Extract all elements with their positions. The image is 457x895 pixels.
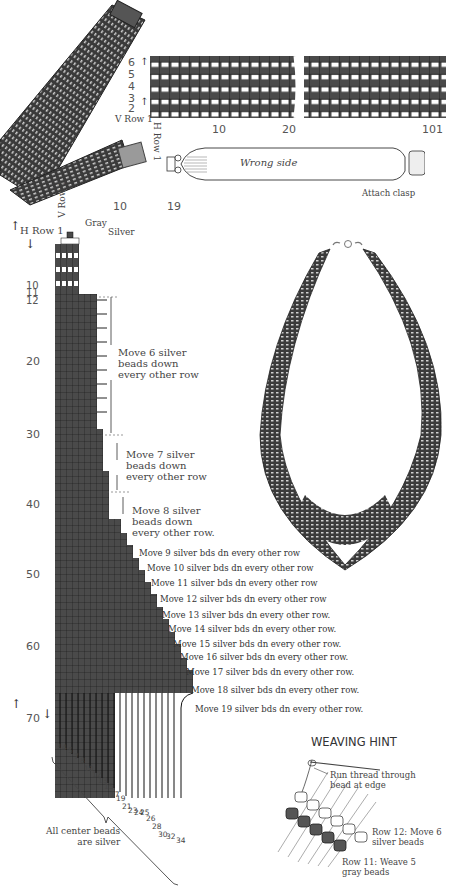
col-label-10: 10 (212, 123, 226, 136)
v-row-1-side-label: V Row 1 (57, 180, 67, 218)
down-arrow-icon: ↓ (42, 707, 52, 721)
side-col-10: 10 (113, 200, 127, 213)
instruction-8: Move 8 silver beads down every other row… (132, 505, 215, 538)
hint-callout-row-12: Row 12: Move 6 silver beads (372, 827, 442, 847)
instruction-19: Move 19 silver bds dn every other row. (195, 704, 363, 714)
h-row-1-label: H Row 1 (152, 122, 162, 161)
down-arrow-icon: ↓ (25, 237, 35, 251)
instruction-18: Move 18 silver bds dn every other row. (191, 685, 359, 695)
up-arrow-icon: ↑ (140, 96, 148, 107)
row-num-40: 40 (26, 498, 40, 511)
wrong-side-label: Wrong side (240, 157, 297, 168)
hint-callout-row-11: Row 11: Weave 5 gray beads (342, 857, 416, 877)
row-num-60: 60 (26, 640, 40, 653)
instruction-11: Move 11 silver bds dn every other row (151, 578, 318, 588)
instruction-16: Move 16 silver bds dn every other row. (180, 652, 348, 662)
center-bracket (50, 755, 180, 895)
up-arrow-icon: ↑ (140, 56, 148, 67)
up-arrow-icon: ↑ (10, 219, 20, 233)
row-num-12: 12 (26, 297, 39, 305)
top-pattern-chart (150, 56, 446, 118)
row-num-30: 30 (26, 428, 40, 441)
up-arrow-icon: ↑ (11, 697, 21, 711)
instruction-13: Move 13 silver bds dn every other row. (162, 610, 330, 620)
center-note: All center beads are silver (46, 826, 120, 848)
row-num-70: 70 (26, 712, 40, 725)
instruction-17: Move 17 silver bds dn every other row. (186, 667, 354, 677)
instruction-7: Move 7 silver beads down every other row (126, 449, 207, 482)
weaving-hint-title: WEAVING HINT (311, 735, 397, 749)
attach-clasp-label: Attach clasp (362, 188, 415, 198)
hint-callout-run-thread: Run thread through bead at edge (330, 770, 416, 790)
col-label-101: 101 (422, 123, 443, 136)
instruction-6: Move 6 silver beads down every other row (118, 347, 199, 380)
side-col-19: 19 (167, 200, 181, 213)
instruction-15: Move 15 silver bds dn every other row. (173, 639, 341, 649)
col-label-20: 20 (282, 123, 296, 136)
instruction-12: Move 12 silver bds dn every other row (160, 594, 327, 604)
row-num-20: 20 (26, 355, 40, 368)
necklace-photo (245, 235, 450, 575)
v-row-1-label: V Row 1 (115, 114, 153, 124)
row-num-50: 50 (26, 568, 40, 581)
instruction-14: Move 14 silver bds dn every other row. (168, 624, 336, 634)
